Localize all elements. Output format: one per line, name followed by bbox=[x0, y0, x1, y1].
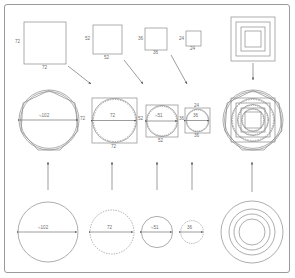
square-24-bottom-label: 24 bbox=[190, 47, 195, 52]
mid-72-diameter-label: 72 bbox=[110, 114, 115, 119]
mid-36-top-label: 24 bbox=[194, 104, 199, 109]
mid-102-side-label: 72 bbox=[80, 117, 85, 122]
mid-51-diameter-label: ≈51 bbox=[155, 114, 163, 119]
mid-36-diameter-label: 36 bbox=[193, 114, 198, 119]
mid-72-side-label: 52 bbox=[138, 117, 143, 122]
nested-squares-stack bbox=[231, 17, 275, 61]
square-72-left-label: 72 bbox=[15, 40, 20, 45]
composite-overlay bbox=[223, 90, 283, 150]
square-24 bbox=[186, 31, 201, 46]
bottom-36-label: 36 bbox=[187, 226, 192, 231]
square-36-bottom-label: 36 bbox=[153, 51, 158, 56]
square-52-bottom-label: 52 bbox=[104, 56, 109, 61]
square-52-left-label: 52 bbox=[85, 37, 90, 42]
square-52 bbox=[93, 25, 122, 54]
diagram-canvas bbox=[0, 0, 295, 278]
square-72-bottom-label: 72 bbox=[42, 66, 47, 71]
mid-51-side-label: 36 bbox=[179, 117, 184, 122]
arrow-square52-to-circle51 bbox=[124, 60, 143, 84]
bottom-102-label: ≈102 bbox=[38, 226, 48, 231]
square-36-left-label: 36 bbox=[138, 37, 143, 42]
bottom-51-label: ≈51 bbox=[151, 226, 159, 231]
mid-51-square-label: 52 bbox=[158, 139, 163, 144]
arrow-square36-to-circle36 bbox=[171, 55, 187, 84]
diagram-root: 72 72 52 52 36 36 24 24 ≈102 72 72 72 52… bbox=[0, 0, 295, 278]
square-72 bbox=[24, 22, 66, 64]
square-36 bbox=[145, 28, 167, 50]
square-24-left-label: 24 bbox=[179, 37, 184, 42]
mid-102-diameter-label: ≈102 bbox=[39, 114, 49, 119]
arrow-square72-to-circle72 bbox=[68, 66, 91, 84]
concentric-circles bbox=[221, 201, 283, 263]
bottom-72-label: 72 bbox=[107, 226, 112, 231]
mid-72-square-label: 72 bbox=[111, 145, 116, 150]
mid-36-square-label: 36 bbox=[194, 134, 199, 139]
